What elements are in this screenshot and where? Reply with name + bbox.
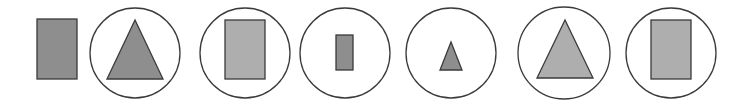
large-light-triangle bbox=[537, 20, 593, 78]
figure-2 bbox=[200, 8, 290, 98]
figure-0 bbox=[37, 19, 77, 79]
figure-1 bbox=[90, 8, 180, 98]
small-dark-triangle bbox=[440, 42, 462, 70]
large-dark-rectangle bbox=[37, 19, 77, 79]
figure-3 bbox=[300, 8, 390, 98]
large-light-rectangle bbox=[651, 20, 691, 79]
figure-6 bbox=[626, 8, 716, 98]
figure-5 bbox=[518, 7, 610, 99]
small-dark-rectangle bbox=[336, 35, 353, 70]
large-dark-triangle bbox=[107, 20, 163, 79]
figure-4 bbox=[406, 8, 496, 98]
shape-sequence-diagram bbox=[0, 0, 755, 107]
large-light-rectangle bbox=[225, 20, 265, 79]
figure-row bbox=[37, 7, 716, 99]
